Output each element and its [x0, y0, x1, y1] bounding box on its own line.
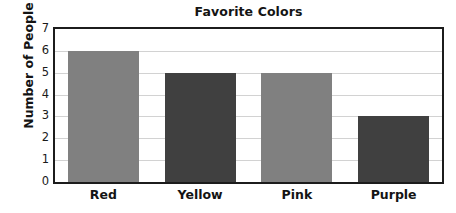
y-tick-label: 0 [34, 176, 49, 188]
x-tick-label: Yellow [152, 187, 249, 202]
bar-chart: Favorite Colors Number of People 0123456… [0, 0, 456, 213]
y-tick-label: 4 [34, 89, 49, 101]
x-tick-label: Purple [345, 187, 442, 202]
x-tick-label: Pink [249, 187, 346, 202]
x-axis-tick-labels: RedYellowPinkPurple [53, 187, 444, 209]
y-tick-label: 7 [34, 23, 49, 35]
y-tick-label: 2 [34, 133, 49, 145]
chart-title: Favorite Colors [53, 4, 444, 19]
bar[interactable] [68, 51, 139, 182]
bar[interactable] [358, 116, 429, 182]
y-tick-label: 1 [34, 154, 49, 166]
y-tick-label: 6 [34, 45, 49, 57]
plot-area [53, 27, 444, 184]
y-tick-label: 3 [34, 111, 49, 123]
x-tick-label: Red [55, 187, 152, 202]
bars-layer [55, 29, 442, 182]
y-tick-label: 5 [34, 67, 49, 79]
bar[interactable] [165, 73, 236, 182]
bar[interactable] [261, 73, 332, 182]
y-axis-tick-labels: 01234567 [34, 27, 49, 184]
